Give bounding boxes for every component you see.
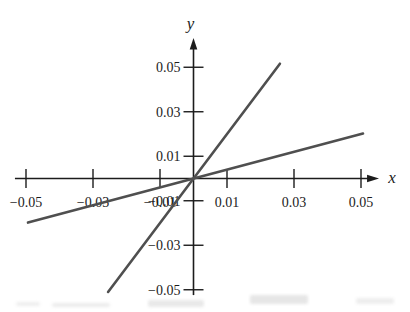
- y-tick-label: −0.05: [148, 283, 180, 298]
- y-tick-label: −0.03: [148, 238, 180, 253]
- print-artifact: [148, 300, 204, 307]
- y-axis-label: y: [185, 14, 195, 33]
- line-chart: −0.05−0.03−0.010.010.030.05−0.05−0.03−0.…: [0, 0, 410, 312]
- y-tick-label: 0.05: [156, 60, 181, 75]
- x-tick-label: 0.03: [282, 195, 307, 210]
- x-tick-label: 0.05: [349, 195, 374, 210]
- y-tick-label: 0.03: [156, 105, 181, 120]
- x-axis-arrow-icon: [367, 175, 379, 183]
- y-axis-arrow-icon: [190, 38, 198, 50]
- y-tick-label: 0.01: [156, 149, 181, 164]
- print-artifact: [52, 303, 110, 307]
- x-tick-label: −0.05: [10, 195, 42, 210]
- x-axis-label: x: [387, 168, 396, 187]
- print-artifact: [16, 302, 40, 306]
- print-artifact: [356, 298, 394, 304]
- print-artifact: [250, 295, 308, 304]
- figure-container: −0.05−0.03−0.010.010.030.05−0.05−0.03−0.…: [0, 0, 410, 312]
- x-tick-label: 0.01: [215, 195, 240, 210]
- axes-layer: −0.05−0.03−0.010.010.030.05−0.05−0.03−0.…: [10, 38, 379, 298]
